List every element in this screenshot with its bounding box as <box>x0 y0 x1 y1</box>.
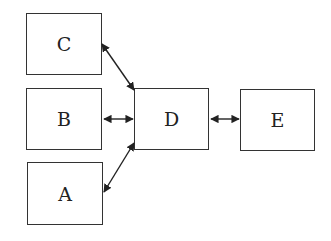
edge-c-d <box>102 44 134 90</box>
edges-layer <box>0 0 331 241</box>
edge-a-d <box>104 143 134 192</box>
